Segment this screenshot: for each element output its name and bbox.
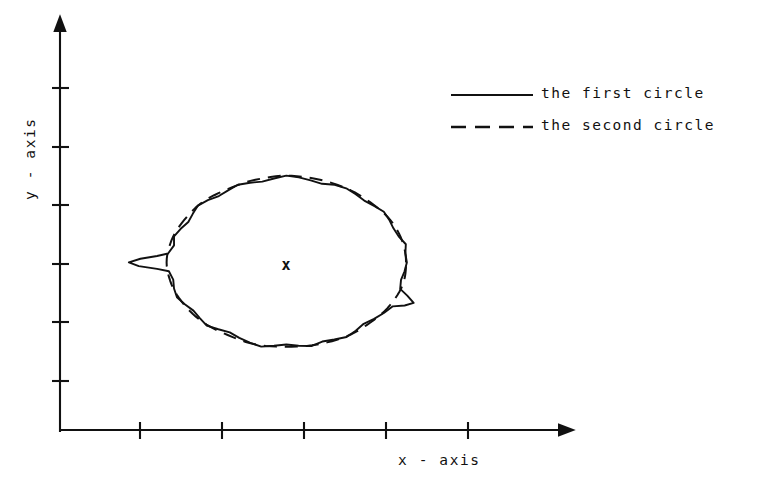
figure-canvas: x the first circle the second circle x -… xyxy=(0,0,761,495)
series-the-first-circle xyxy=(129,176,414,347)
plot-area: x xyxy=(0,0,761,495)
x-axis-label: x - axis xyxy=(398,452,481,468)
axes-group xyxy=(59,30,560,432)
center-marker: x xyxy=(281,256,290,274)
legend-label-first-circle: the first circle xyxy=(541,85,705,101)
legend-label-second-circle: the second circle xyxy=(541,117,715,133)
legend-keys xyxy=(451,95,533,127)
data-series-group xyxy=(129,176,414,347)
y-axis-label: y - axis xyxy=(22,134,38,200)
center-marker-glyph: x xyxy=(281,256,290,274)
